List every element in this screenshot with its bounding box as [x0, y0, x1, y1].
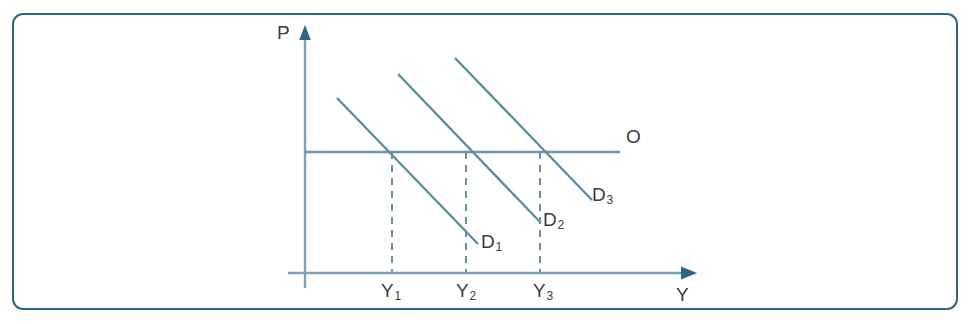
price-axis-label: P: [277, 23, 290, 42]
output-axis: [288, 267, 697, 280]
demand-curve-label-d3: D3: [592, 185, 613, 206]
output-tick-label-y3-sub: 3: [546, 289, 553, 303]
output-tick-label-y2-sub: 2: [469, 289, 476, 303]
demand-curve-label-d1: D1: [481, 232, 502, 253]
output-tick-label-y2: Y2: [456, 281, 476, 302]
output-tick-label-y2-text: Y: [456, 280, 469, 301]
demand-curve-label-d2: D2: [543, 210, 564, 231]
demand-curve-d2: [398, 74, 540, 222]
price-axis-arrowhead: [299, 25, 311, 40]
demand-curve-d1: [337, 98, 478, 244]
output-tick-label-y3-text: Y: [533, 280, 546, 301]
price-axis: [299, 25, 311, 288]
output-axis-label: Y: [676, 285, 689, 304]
diagram-canvas: P Y O D1 D2 D3 Y1 Y2 Y3: [0, 0, 971, 324]
demand-curve-label-d2-text: D: [543, 209, 557, 230]
output-tick-label-y1: Y1: [381, 281, 401, 302]
demand-curve-label-d3-text: D: [592, 184, 606, 205]
demand-curve-label-d1-text: D: [481, 231, 495, 252]
demand-curve-d3: [455, 58, 592, 200]
demand-curve-label-d3-sub: 3: [606, 193, 613, 207]
demand-curve-label-d2-sub: 2: [557, 218, 564, 232]
output-tick-label-y1-sub: 1: [394, 289, 401, 303]
output-tick-label-y3: Y3: [533, 281, 553, 302]
output-tick-label-y1-text: Y: [381, 280, 394, 301]
demand-curve-label-d1-sub: 1: [495, 240, 502, 254]
economics-diagram-svg: [0, 0, 971, 324]
supply-curve-label: O: [626, 127, 641, 146]
output-axis-arrowhead: [681, 267, 697, 280]
